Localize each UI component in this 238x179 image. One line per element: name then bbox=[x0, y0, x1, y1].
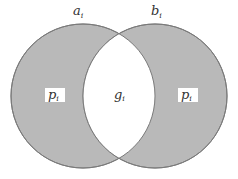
set-b-label: bi bbox=[151, 3, 162, 20]
venn-diagram: ai bi pi gi pi bbox=[0, 0, 238, 179]
set-a-label: ai bbox=[73, 3, 84, 20]
